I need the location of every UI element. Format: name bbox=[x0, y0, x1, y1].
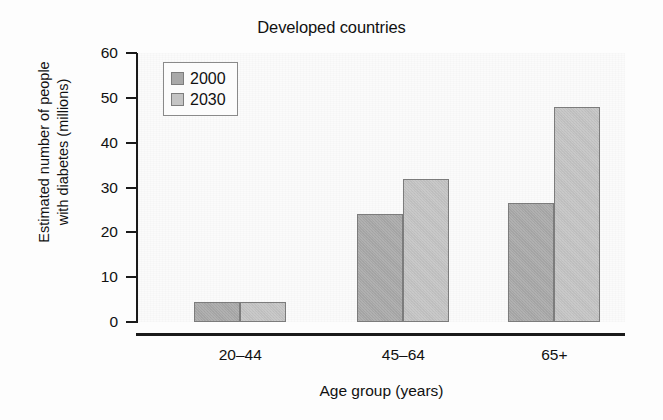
y-tick-mark bbox=[126, 52, 137, 54]
y-tick-mark bbox=[126, 97, 137, 99]
x-axis-line bbox=[136, 333, 625, 336]
y-tick-label: 30 bbox=[72, 179, 118, 197]
x-tick-label: 45–64 bbox=[343, 346, 463, 364]
legend-label-2000: 2000 bbox=[190, 71, 226, 87]
y-tick-label: 60 bbox=[72, 44, 118, 62]
y-axis-title: Estimated number of people with diabetes… bbox=[32, 2, 76, 302]
legend-item-2000: 2000 bbox=[171, 68, 226, 89]
legend-swatch-2030-icon bbox=[171, 93, 184, 106]
y-tick-label: 40 bbox=[72, 134, 118, 152]
bar-2030-45-64 bbox=[403, 179, 449, 322]
x-tick-label: 65+ bbox=[494, 346, 614, 364]
bar-2000-20-44 bbox=[194, 302, 240, 322]
legend: 2000 2030 bbox=[163, 62, 238, 116]
bar-2030-20-44 bbox=[240, 302, 286, 322]
y-tick-label: 10 bbox=[72, 268, 118, 286]
y-tick-mark bbox=[126, 321, 137, 323]
y-tick-mark bbox=[126, 276, 137, 278]
bar-2030-65+ bbox=[554, 107, 600, 322]
legend-item-2030: 2030 bbox=[171, 89, 226, 110]
y-tick-label: 0 bbox=[72, 313, 118, 331]
bar-2000-45-64 bbox=[357, 214, 403, 322]
y-tick-mark bbox=[126, 231, 137, 233]
y-tick-label: 20 bbox=[72, 223, 118, 241]
chart-title: Developed countries bbox=[0, 18, 663, 37]
chart-figure: Developed countries Estimated number of … bbox=[0, 0, 663, 420]
x-axis-title: Age group (years) bbox=[138, 382, 625, 400]
y-tick-label: 50 bbox=[72, 89, 118, 107]
bar-2000-65+ bbox=[508, 203, 554, 322]
legend-label-2030: 2030 bbox=[190, 92, 226, 108]
x-tick-label: 20–44 bbox=[180, 346, 300, 364]
legend-swatch-2000-icon bbox=[171, 72, 184, 85]
y-axis-title-line2: with diabetes (millions) bbox=[54, 61, 73, 242]
y-tick-mark bbox=[126, 142, 137, 144]
y-tick-mark bbox=[126, 187, 137, 189]
y-axis-title-line1: Estimated number of people bbox=[35, 61, 54, 242]
